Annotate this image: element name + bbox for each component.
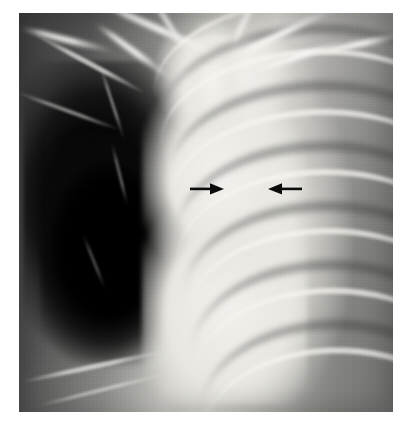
arrow-right-glyph	[190, 181, 226, 197]
annotation-layer	[0, 0, 414, 431]
annotation-arrow-right-pointing	[190, 181, 226, 197]
arrow-left-glyph	[266, 181, 302, 197]
annotation-arrow-left-pointing	[266, 181, 302, 197]
radiograph-figure	[0, 0, 414, 431]
